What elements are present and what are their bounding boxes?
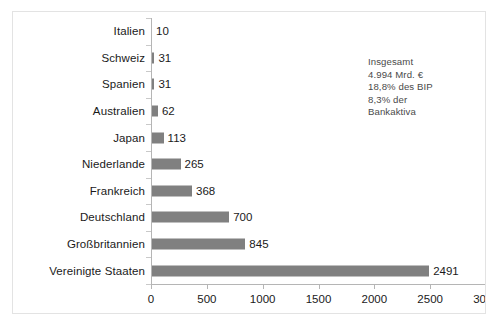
bar-row: Japan113 bbox=[13, 124, 485, 151]
x-axis-tick-label: 3000 bbox=[473, 293, 486, 305]
bar-category-label: Vereinigte Staaten bbox=[13, 265, 145, 277]
x-axis-tick-label: 1000 bbox=[250, 293, 276, 305]
x-axis-tick-label: 2500 bbox=[417, 293, 443, 305]
bar-row: Italien10 bbox=[13, 18, 485, 45]
bar-category-label: Australien bbox=[13, 105, 145, 117]
bar-track: 62 bbox=[151, 98, 485, 125]
x-axis-tick bbox=[374, 284, 375, 289]
bar-track: 368 bbox=[151, 178, 485, 205]
x-axis-tick bbox=[207, 284, 208, 289]
annotation-line: 4.994 Mrd. € bbox=[368, 69, 433, 82]
bar-track: 113 bbox=[151, 124, 485, 151]
bar-category-label: Niederlande bbox=[13, 158, 145, 170]
annotation-line: Bankaktiva bbox=[368, 106, 433, 119]
y-axis-tick bbox=[146, 257, 151, 258]
x-axis-tick bbox=[430, 284, 431, 289]
bar-track: 265 bbox=[151, 151, 485, 178]
bar-row: Frankreich368 bbox=[13, 178, 485, 205]
y-axis-tick bbox=[146, 71, 151, 72]
y-axis-tick bbox=[146, 178, 151, 179]
chart-figure: Italien10Schweiz31Spanien31Australien62J… bbox=[12, 11, 486, 314]
bar-category-label: Italien bbox=[13, 25, 145, 37]
bar-value-label: 368 bbox=[196, 185, 215, 197]
y-axis-tick bbox=[146, 124, 151, 125]
x-axis-tick-label: 0 bbox=[148, 293, 154, 305]
bar-value-label: 10 bbox=[156, 25, 169, 37]
bar bbox=[151, 212, 229, 223]
x-axis-tick bbox=[319, 284, 320, 289]
x-axis-tick bbox=[263, 284, 264, 289]
annotation-line: 18,8% des BIP bbox=[368, 81, 433, 94]
bar-category-label: Deutschland bbox=[13, 211, 145, 223]
bar-row: Großbritannien845 bbox=[13, 231, 485, 258]
chart-annotation: Insgesamt4.994 Mrd. €18,8% des BIP8,3% d… bbox=[368, 56, 433, 119]
y-axis-tick bbox=[146, 98, 151, 99]
bar-value-label: 845 bbox=[249, 238, 268, 250]
bar bbox=[151, 239, 245, 250]
bar-track: 700 bbox=[151, 204, 485, 231]
y-axis-tick bbox=[146, 151, 151, 152]
bar-category-label: Frankreich bbox=[13, 185, 145, 197]
y-axis-tick bbox=[146, 204, 151, 205]
bar bbox=[151, 159, 181, 170]
y-axis-tick bbox=[146, 284, 151, 285]
bar-category-label: Großbritannien bbox=[13, 238, 145, 250]
bar-track: 845 bbox=[151, 231, 485, 258]
bar-row: Vereinigte Staaten2491 bbox=[13, 257, 485, 284]
bar bbox=[151, 106, 158, 117]
bar-value-label: 265 bbox=[185, 158, 204, 170]
bar-value-label: 700 bbox=[233, 211, 252, 223]
bar-value-label: 113 bbox=[168, 132, 186, 144]
annotation-line: Insgesamt bbox=[368, 56, 433, 69]
bar-row: Niederlande265 bbox=[13, 151, 485, 178]
bar-category-label: Spanien bbox=[13, 78, 145, 90]
bar bbox=[151, 265, 429, 276]
x-axis-tick-label: 500 bbox=[197, 293, 216, 305]
bar bbox=[151, 132, 164, 143]
y-axis-line bbox=[151, 18, 152, 284]
x-axis-tick-label: 2000 bbox=[362, 293, 388, 305]
bar-value-label: 31 bbox=[158, 78, 171, 90]
bar-category-label: Japan bbox=[13, 132, 145, 144]
bar-row: Deutschland700 bbox=[13, 204, 485, 231]
bar bbox=[151, 185, 192, 196]
x-axis-tick-label: 1500 bbox=[306, 293, 332, 305]
bar-value-label: 31 bbox=[158, 52, 171, 64]
y-axis-tick bbox=[146, 18, 151, 19]
x-axis-tick bbox=[151, 284, 152, 289]
bar-track: 31 bbox=[151, 45, 485, 72]
bar-track: 2491 bbox=[151, 257, 485, 284]
y-axis-tick bbox=[146, 231, 151, 232]
bar-category-label: Schweiz bbox=[13, 52, 145, 64]
y-axis-tick bbox=[146, 45, 151, 46]
annotation-line: 8,3% der bbox=[368, 94, 433, 107]
bar-value-label: 62 bbox=[162, 105, 175, 117]
bar-value-label: 2491 bbox=[433, 265, 459, 277]
bar-track: 31 bbox=[151, 71, 485, 98]
bar-track: 10 bbox=[151, 18, 485, 45]
